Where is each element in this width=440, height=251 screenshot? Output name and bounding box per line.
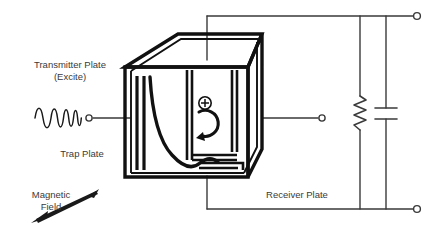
figure-canvas: Transmitter Plate (Excite) Trap Plate Ma… (0, 0, 440, 251)
label-transmitter-line2: (Excite) (18, 71, 122, 83)
chirp-waveform-icon (35, 108, 81, 128)
capacitor-plates-icon (375, 108, 397, 119)
label-receiver-plate: Receiver Plate (255, 189, 339, 201)
circular-orbit-arrow-icon (199, 110, 218, 136)
receiver-output-terminal-icon[interactable] (319, 115, 325, 121)
plus-charge-icon (199, 97, 211, 109)
excite-input-terminal-icon[interactable] (86, 115, 92, 121)
trap-plate (137, 76, 144, 170)
top-right-terminal-icon[interactable] (414, 13, 421, 20)
cell-plate-edges (131, 39, 258, 173)
ion-trajectory-curve (150, 77, 218, 166)
resistor-zigzag-icon (354, 96, 366, 130)
label-magnetic-line2: Field (21, 201, 81, 213)
transmitter-plate (187, 70, 192, 160)
circuit-wiring (93, 16, 413, 209)
cell-right-face (248, 34, 262, 177)
cell-bottom-plate (199, 163, 243, 170)
label-transmitter-plate: Transmitter Plate (Excite) (18, 59, 122, 83)
orbit-arrowhead-icon (196, 132, 205, 141)
icr-cell-diagram (0, 0, 440, 251)
label-trap-plate: Trap Plate (47, 148, 117, 160)
label-magnetic-field: Magnetic Field (21, 189, 81, 213)
label-transmitter-line1: Transmitter Plate (18, 59, 122, 71)
label-magnetic-line1: Magnetic (21, 189, 81, 201)
bottom-right-terminal-icon[interactable] (414, 206, 421, 213)
